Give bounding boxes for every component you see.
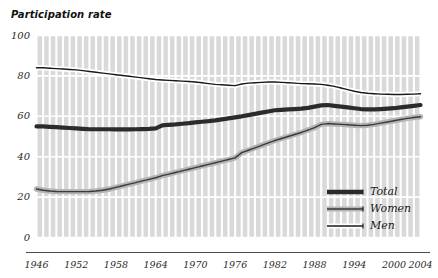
y-axis-tick-label: 20	[4, 191, 30, 202]
legend-item-men: Men	[370, 219, 395, 232]
y-axis-tick-label: 40	[4, 151, 30, 162]
x-axis-tick-label: 1994	[337, 259, 371, 270]
legend-item-total: Total	[370, 185, 398, 198]
x-axis-tick-label: 1988	[298, 259, 332, 270]
x-axis-tick-label: 1976	[218, 259, 252, 270]
x-axis-tick-label: 1952	[59, 259, 93, 270]
x-axis-tick-label: 2004	[404, 259, 438, 270]
y-axis-tick-label: 80	[4, 70, 30, 81]
x-axis-tick-label: 1982	[258, 259, 292, 270]
chart-plot-area	[0, 0, 438, 278]
x-axis-tick-label: 1964	[139, 259, 173, 270]
x-axis-tick-label: 1970	[178, 259, 212, 270]
y-axis-tick-label: 60	[4, 110, 30, 121]
x-axis-tick-label: 1946	[20, 259, 54, 270]
y-axis-tick-label: 0	[4, 232, 30, 243]
x-axis-tick-label: 1958	[99, 259, 133, 270]
y-axis-tick-label: 100	[4, 30, 30, 41]
chart-figure: Participation rate 100806040200194619521…	[0, 0, 438, 278]
legend-item-women: Women	[370, 202, 411, 215]
